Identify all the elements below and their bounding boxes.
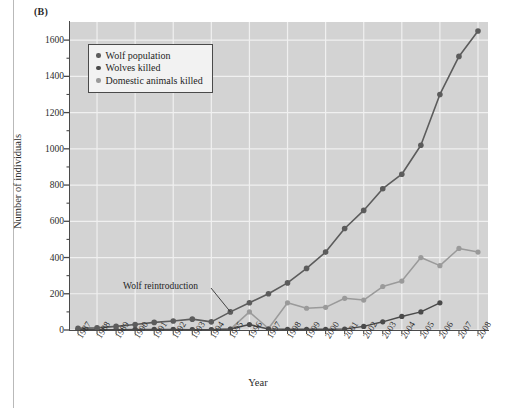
legend-marker-dot-icon	[96, 78, 101, 83]
x-tick-label: 2001	[342, 320, 360, 341]
x-tick-label: 1993	[189, 320, 207, 341]
x-tick-label: 2002	[361, 320, 379, 341]
x-tick-label: 1991	[151, 320, 169, 341]
x-tick-label: 1998	[285, 320, 303, 341]
x-tick-label: 1994	[208, 320, 226, 341]
legend-label: Wolves killed	[106, 62, 161, 73]
x-tick-label: 1995	[227, 320, 245, 341]
figure-panel: (B) 02004006008001000120014001600 Number…	[0, 0, 516, 408]
legend-item[interactable]: Wolves killed	[96, 62, 203, 75]
x-tick-label: 2003	[380, 320, 398, 341]
x-tick-label: 1989	[113, 320, 131, 341]
x-axis-title: Year	[0, 377, 516, 388]
x-tick-label: 1996	[246, 320, 264, 341]
legend-marker-dot-icon	[96, 53, 101, 58]
x-tick-label: 2007	[456, 320, 474, 341]
x-tick-label: 2000	[323, 320, 341, 341]
x-tick-labels: 1987198819891990199119921993199419951996…	[0, 0, 516, 408]
legend-item[interactable]: Wolf population	[96, 49, 203, 62]
legend-label: Wolf population	[106, 50, 171, 61]
x-tick-label: 2006	[437, 320, 455, 341]
annotation-wolf-reintroduction: Wolf reintroduction	[123, 281, 198, 291]
x-tick-label: 2008	[475, 320, 493, 341]
x-tick-label: 2005	[418, 320, 436, 341]
x-tick-label: 1990	[132, 320, 150, 341]
x-tick-label: 1997	[265, 320, 283, 341]
chart-legend: Wolf populationWolves killedDomestic ani…	[88, 44, 213, 93]
x-tick-label: 1999	[304, 320, 322, 341]
x-tick-label: 1987	[75, 320, 93, 341]
x-tick-label: 2004	[399, 320, 417, 341]
x-tick-label: 1992	[170, 320, 188, 341]
legend-item[interactable]: Domestic animals killed	[96, 74, 203, 87]
legend-label: Domestic animals killed	[106, 75, 203, 86]
x-tick-label: 1988	[94, 320, 112, 341]
legend-marker-dot-icon	[96, 66, 101, 71]
